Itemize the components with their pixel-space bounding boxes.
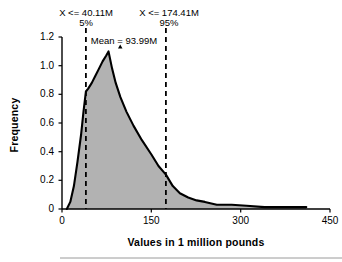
y-tick-label-1: 0.2 [40, 174, 54, 185]
y-tick-label-0: 0 [48, 203, 54, 214]
x-tick-label-2: 300 [232, 215, 249, 226]
upper-percentile-percent: 95% [159, 17, 179, 28]
x-axis-title: Values in 1 million pounds [127, 236, 264, 248]
y-tick-label-5: 1.0 [40, 60, 54, 71]
y-tick-label-3: 0.6 [40, 117, 54, 128]
x-tick-label-0: 0 [59, 215, 65, 226]
y-axis-title: Frequency [8, 98, 20, 153]
x-tick-label-3: 450 [322, 215, 339, 226]
x-tick-label-1: 150 [143, 215, 160, 226]
chart-canvas: 0 0.2 0.4 0.6 0.8 1.0 1.2 0 150 300 450 … [0, 0, 342, 262]
y-tick-label-2: 0.4 [40, 146, 54, 157]
y-tick-label-6: 1.2 [40, 31, 54, 42]
y-tick-label-4: 0.8 [40, 88, 54, 99]
mean-label: Mean = 93.99M [91, 35, 157, 46]
histogram-chart-figure: 0 0.2 0.4 0.6 0.8 1.0 1.2 0 150 300 450 … [0, 0, 342, 262]
lower-percentile-percent: 5% [79, 17, 93, 28]
